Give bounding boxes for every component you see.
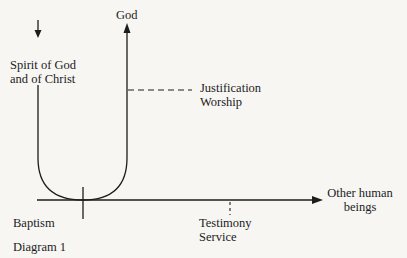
- diagram-caption: Diagram 1: [13, 240, 66, 254]
- other-human-label-line2: beings: [322, 200, 398, 214]
- other-human-label-line1: Other human: [322, 186, 398, 200]
- spirit-label-line2: and of Christ: [10, 72, 75, 86]
- up-arrowhead-icon: [124, 23, 131, 33]
- testimony-label: Testimony: [199, 216, 252, 230]
- u-curve: [38, 30, 127, 200]
- down-arrowhead-icon: [35, 30, 42, 38]
- god-label: God: [116, 8, 138, 22]
- worship-label: Worship: [200, 95, 242, 109]
- spirit-label-line1: Spirit of God: [10, 58, 76, 72]
- baptism-label: Baptism: [13, 216, 55, 230]
- justification-label: Justification: [200, 81, 261, 95]
- service-label: Service: [199, 230, 236, 244]
